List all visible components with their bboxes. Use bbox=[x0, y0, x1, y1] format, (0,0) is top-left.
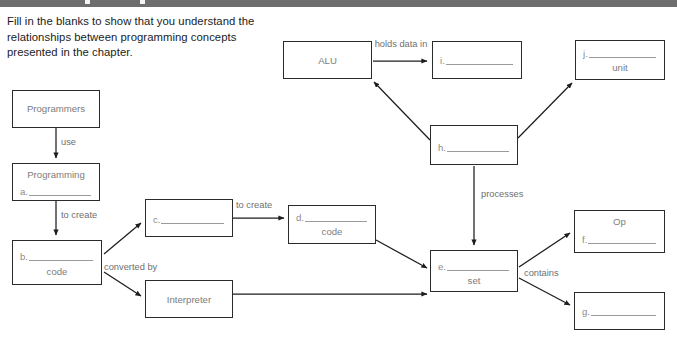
node-f-blank[interactable]: f. bbox=[582, 235, 656, 245]
node-g-blank[interactable]: g. bbox=[582, 307, 656, 317]
worksheet-page: Fill in the blanks to show that you unde… bbox=[0, 0, 677, 350]
node-j-letter: j. bbox=[583, 49, 589, 59]
node-e-subtitle: set bbox=[431, 275, 517, 286]
node-c[interactable]: c. bbox=[145, 199, 233, 237]
node-j[interactable]: j. unit bbox=[575, 40, 665, 80]
node-interpreter[interactable]: Interpreter bbox=[145, 280, 233, 318]
node-j-blank[interactable]: j. bbox=[583, 49, 656, 59]
node-g-letter: g. bbox=[582, 307, 591, 317]
node-f-rule bbox=[588, 243, 656, 244]
edge-label-to-create-1: to create bbox=[61, 210, 97, 221]
node-h[interactable]: h. bbox=[430, 125, 518, 165]
edge-e-to-f bbox=[519, 233, 570, 267]
node-i-letter: i. bbox=[440, 56, 446, 66]
node-f-letter: f. bbox=[582, 235, 588, 245]
edge-d-to-e bbox=[376, 240, 427, 268]
node-e-blank[interactable]: e. bbox=[438, 262, 509, 272]
edge-b-to-interpreter bbox=[104, 272, 141, 296]
edge-h-to-j bbox=[518, 83, 572, 138]
node-alu-title: ALU bbox=[284, 55, 371, 66]
node-programming-letter: a. bbox=[20, 187, 29, 197]
edge-label-converted-by: converted by bbox=[104, 262, 157, 273]
edge-label-contains: contains bbox=[524, 268, 559, 279]
node-h-letter: h. bbox=[438, 143, 447, 153]
node-b[interactable]: b. code bbox=[12, 240, 102, 285]
edge-label-processes: processes bbox=[481, 189, 523, 200]
node-d[interactable]: d. code bbox=[288, 205, 376, 244]
node-h-rule bbox=[447, 151, 509, 152]
node-i[interactable]: i. bbox=[432, 41, 522, 79]
edge-label-holds-data-in: holds data in bbox=[373, 39, 429, 50]
node-d-rule bbox=[305, 221, 367, 222]
node-b-letter: b. bbox=[20, 252, 29, 262]
node-alu[interactable]: ALU bbox=[283, 41, 372, 79]
edge-label-to-create-2: to create bbox=[236, 200, 272, 211]
node-g-rule bbox=[591, 315, 656, 316]
edge-b-to-c bbox=[104, 223, 141, 254]
node-programmers[interactable]: Programmers bbox=[12, 90, 100, 128]
node-d-letter: d. bbox=[296, 213, 305, 223]
edge-e-to-g bbox=[519, 278, 570, 305]
node-programming-rule bbox=[29, 195, 91, 196]
node-j-rule bbox=[589, 57, 656, 58]
node-h-blank[interactable]: h. bbox=[438, 143, 509, 153]
node-f[interactable]: Op f. bbox=[574, 210, 665, 253]
node-g[interactable]: g. bbox=[574, 292, 665, 330]
node-programming[interactable]: Programming a. bbox=[12, 163, 100, 201]
node-c-rule bbox=[161, 223, 224, 224]
node-i-blank[interactable]: i. bbox=[440, 56, 513, 66]
node-c-letter: c. bbox=[153, 215, 161, 225]
node-programming-blank[interactable]: a. bbox=[20, 187, 91, 197]
node-b-subtitle: code bbox=[13, 266, 101, 277]
node-b-blank[interactable]: b. bbox=[20, 252, 93, 262]
node-programmers-title: Programmers bbox=[13, 103, 99, 114]
node-programming-title: Programming bbox=[13, 169, 99, 180]
node-c-blank[interactable]: c. bbox=[153, 215, 224, 225]
node-f-title: Op bbox=[575, 216, 664, 227]
node-j-subtitle: unit bbox=[576, 62, 664, 73]
node-e-letter: e. bbox=[438, 262, 447, 272]
node-e[interactable]: e. set bbox=[430, 250, 518, 292]
edge-h-to-alu bbox=[374, 82, 430, 140]
edge-label-use: use bbox=[61, 137, 76, 148]
node-e-rule bbox=[447, 270, 509, 271]
node-b-rule bbox=[29, 260, 93, 261]
node-i-rule bbox=[446, 64, 513, 65]
node-d-blank[interactable]: d. bbox=[296, 213, 367, 223]
node-d-subtitle: code bbox=[289, 226, 375, 237]
node-interpreter-title: Interpreter bbox=[146, 294, 232, 305]
